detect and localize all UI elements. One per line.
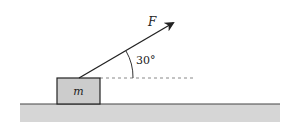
angle-arc — [126, 51, 133, 78]
force-diagram: m 30° F — [0, 0, 294, 127]
force-label: F — [147, 15, 157, 29]
ground-surface — [20, 104, 280, 122]
force-arrow — [79, 23, 173, 78]
diagram-canvas: m 30° F — [0, 0, 294, 127]
angle-label: 30° — [136, 54, 156, 67]
mass-label: m — [73, 85, 83, 98]
